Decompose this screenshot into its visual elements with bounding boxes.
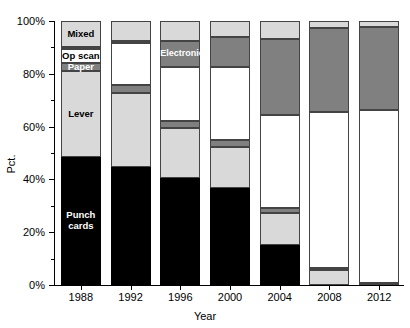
y-axis-tick-major xyxy=(49,179,55,180)
y-axis-tick-minor xyxy=(51,153,55,154)
y-axis-tick-major xyxy=(49,74,55,75)
voting-technology-stacked-bar-chart: Pct. 0%20%40%60%80%100% 1988199219962000… xyxy=(0,0,410,328)
bar-segment-lever-1996[interactable] xyxy=(160,128,200,178)
bar-segment-punch-cards-2000[interactable] xyxy=(210,188,250,285)
x-axis-tick xyxy=(230,286,231,290)
y-axis-title: Pct. xyxy=(5,155,17,174)
bar-segment-mixed-2012[interactable] xyxy=(359,21,399,27)
bar-2004[interactable] xyxy=(260,21,300,285)
bar-2012[interactable] xyxy=(359,21,399,285)
y-axis-tick-label: 60% xyxy=(0,121,45,132)
bar-segment-mixed-1992[interactable] xyxy=(111,21,151,41)
bar-segment-mixed-2008[interactable] xyxy=(309,21,349,28)
y-axis-tick-major xyxy=(49,21,55,22)
bar-segment-paper-2012[interactable] xyxy=(359,283,399,285)
x-axis-tick-label-2008: 2008 xyxy=(317,291,341,303)
bar-segment-op-scan-2004[interactable] xyxy=(260,115,300,208)
y-axis-tick-label: 0% xyxy=(0,280,45,291)
x-axis-tick-label-2000: 2000 xyxy=(218,291,242,303)
y-axis-tick-label: 100% xyxy=(0,16,45,27)
bar-segment-op-scan-2012[interactable] xyxy=(359,110,399,283)
bar-segment-punch-cards-2004[interactable] xyxy=(260,245,300,285)
bar-segment-paper-2008[interactable] xyxy=(309,268,349,270)
bar-2000[interactable] xyxy=(210,21,250,285)
bar-segment-op-scan-1996[interactable] xyxy=(160,67,200,121)
bar-segment-mixed-2000[interactable] xyxy=(210,21,250,37)
bar-segment-lever-2000[interactable] xyxy=(210,147,250,188)
y-axis-tick-label: 40% xyxy=(0,174,45,185)
bar-segment-lever-2004[interactable] xyxy=(260,213,300,245)
bar-segment-electronic-1996[interactable] xyxy=(160,41,200,67)
x-axis-tick xyxy=(131,286,132,290)
bar-segment-electronic-1988[interactable] xyxy=(61,47,101,49)
y-axis-tick-major xyxy=(49,127,55,128)
bar-segment-electronic-2000[interactable] xyxy=(210,37,250,67)
y-axis-tick-minor xyxy=(51,259,55,260)
x-axis-tick xyxy=(329,286,330,290)
bar-segment-op-scan-1992[interactable] xyxy=(111,43,151,85)
bar-segment-lever-2008[interactable] xyxy=(309,270,349,285)
bar-segment-paper-1988[interactable] xyxy=(61,63,101,71)
bar-segment-mixed-1996[interactable] xyxy=(160,21,200,41)
bar-segment-punch-cards-1996[interactable] xyxy=(160,178,200,285)
x-axis-tick xyxy=(81,286,82,290)
bar-1996[interactable]: Electronic xyxy=(160,21,200,285)
x-axis-tick xyxy=(280,286,281,290)
y-axis-tick-major xyxy=(49,232,55,233)
bar-segment-punch-cards-1988[interactable] xyxy=(61,157,101,285)
x-axis-line xyxy=(54,285,404,286)
bar-segment-electronic-2008[interactable] xyxy=(309,28,349,112)
x-axis-tick xyxy=(379,286,380,290)
bar-segment-punch-cards-1992[interactable] xyxy=(111,167,151,285)
bar-segment-paper-1992[interactable] xyxy=(111,85,151,93)
bar-segment-op-scan-2008[interactable] xyxy=(309,112,349,268)
bar-segment-op-scan-1988[interactable] xyxy=(61,49,101,63)
x-axis-title: Year xyxy=(0,310,410,322)
bar-segment-paper-2000[interactable] xyxy=(210,140,250,147)
y-axis-tick-minor xyxy=(51,47,55,48)
x-axis-tick xyxy=(180,286,181,290)
bar-segment-lever-1988[interactable] xyxy=(61,71,101,157)
plot-area: Punch cardsLeverPaperOp scanMixedElectro… xyxy=(56,21,404,285)
bar-segment-electronic-1992[interactable] xyxy=(111,41,151,43)
x-axis-tick-label-1996: 1996 xyxy=(168,291,192,303)
bar-1988[interactable]: Punch cardsLeverPaperOp scanMixed xyxy=(61,21,101,285)
x-axis-tick-label-2004: 2004 xyxy=(267,291,291,303)
bar-segment-electronic-2004[interactable] xyxy=(260,39,300,115)
y-axis-tick-minor xyxy=(51,100,55,101)
x-axis-tick-label-2012: 2012 xyxy=(367,291,391,303)
x-axis-tick-label-1988: 1988 xyxy=(69,291,93,303)
y-axis-tick-label: 80% xyxy=(0,68,45,79)
y-axis-tick-major xyxy=(49,285,55,286)
y-axis-tick-label: 20% xyxy=(0,227,45,238)
bar-segment-mixed-2004[interactable] xyxy=(260,21,300,39)
bar-2008[interactable] xyxy=(309,21,349,285)
bar-segment-paper-2004[interactable] xyxy=(260,208,300,213)
bar-segment-op-scan-2000[interactable] xyxy=(210,67,250,140)
bar-segment-mixed-1988[interactable] xyxy=(61,21,101,47)
bar-segment-electronic-2012[interactable] xyxy=(359,27,399,110)
bar-segment-paper-1996[interactable] xyxy=(160,121,200,128)
x-axis-tick-label-1992: 1992 xyxy=(118,291,142,303)
bar-segment-lever-1992[interactable] xyxy=(111,93,151,167)
y-axis-tick-minor xyxy=(51,206,55,207)
bar-1992[interactable] xyxy=(111,21,151,285)
